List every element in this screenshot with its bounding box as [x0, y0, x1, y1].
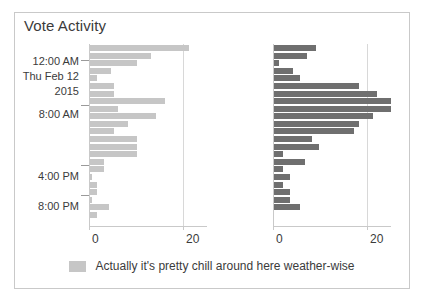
y-axis-label: Thu Feb 12	[23, 70, 79, 82]
bar	[90, 91, 114, 97]
bar	[90, 159, 104, 165]
x-axis-label: 0	[276, 232, 283, 246]
bar	[90, 197, 92, 203]
bar	[90, 204, 109, 210]
bar-group-right	[274, 44, 391, 226]
y-axis-tick	[81, 165, 89, 166]
bar	[274, 151, 283, 157]
bar	[274, 136, 312, 142]
bar	[90, 113, 156, 119]
bar	[90, 98, 165, 104]
bar	[90, 75, 97, 81]
x-axis-label: 20	[370, 232, 383, 246]
bar	[274, 204, 300, 210]
y-axis-label: 2015	[55, 85, 79, 97]
bar	[274, 174, 290, 180]
bar-chart-left	[89, 44, 207, 226]
bar	[274, 98, 391, 104]
x-axis-tick	[367, 226, 368, 230]
legend-swatch-icon	[69, 261, 86, 272]
bar	[90, 212, 97, 218]
chart-legend: Actually it's pretty chill around here w…	[15, 259, 409, 273]
bar	[90, 128, 114, 134]
bar	[90, 174, 92, 180]
bar	[274, 91, 377, 97]
bar	[274, 75, 300, 81]
bar	[274, 83, 359, 89]
bar	[274, 144, 319, 150]
y-axis-label: 8:00 AM	[39, 108, 79, 120]
x-axis-line	[273, 226, 391, 227]
x-axis-right: 0 20	[273, 226, 391, 252]
bar	[274, 189, 290, 195]
y-axis-tick	[81, 60, 89, 61]
bar	[274, 128, 354, 134]
bar-group-left	[90, 44, 207, 226]
bar	[274, 45, 316, 51]
x-axis-tick	[89, 226, 90, 230]
bar-chart-right	[273, 44, 391, 226]
y-axis-label: 4:00 PM	[38, 170, 79, 182]
bar	[274, 68, 293, 74]
bar	[90, 45, 189, 51]
bar	[274, 197, 290, 203]
page-title: Vote Activity	[24, 17, 106, 34]
bar	[90, 83, 114, 89]
y-axis: 12:00 AM Thu Feb 12 2015 8:00 AM 4:00 PM…	[15, 44, 89, 226]
bar	[274, 121, 359, 127]
y-axis-tick	[81, 105, 89, 106]
bar	[90, 121, 128, 127]
bar	[274, 53, 307, 59]
bar	[90, 136, 137, 142]
chart-panel: Vote Activity 12:00 AM Thu Feb 12 2015 8…	[14, 12, 410, 289]
bar	[90, 106, 118, 112]
x-axis-label: 20	[186, 232, 199, 246]
bar	[90, 182, 97, 188]
bar	[90, 53, 151, 59]
bar	[274, 166, 283, 172]
bar	[90, 151, 137, 157]
y-axis-label: 8:00 PM	[38, 200, 79, 212]
bar	[274, 113, 373, 119]
bar	[274, 106, 391, 112]
x-axis-label: 0	[92, 232, 99, 246]
y-axis-label: 12:00 AM	[33, 55, 79, 67]
bar	[90, 68, 111, 74]
bar	[274, 60, 279, 66]
x-axis-tick	[183, 226, 184, 230]
x-axis-left: 0 20	[89, 226, 207, 252]
legend-label: Actually it's pretty chill around here w…	[95, 259, 354, 273]
bar	[90, 166, 104, 172]
y-axis-tick	[81, 195, 89, 196]
bar	[90, 144, 137, 150]
x-axis-line	[89, 226, 207, 227]
bar	[90, 60, 137, 66]
bar	[90, 189, 97, 195]
x-axis-tick	[273, 226, 274, 230]
bar	[274, 182, 283, 188]
bar	[274, 159, 305, 165]
